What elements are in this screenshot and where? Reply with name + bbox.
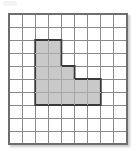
shaded-staircase-polygon [35,40,101,105]
figure-container [0,0,137,151]
scan-artifact [3,1,17,6]
grid-svg [9,14,127,144]
grid-panel [8,13,128,145]
